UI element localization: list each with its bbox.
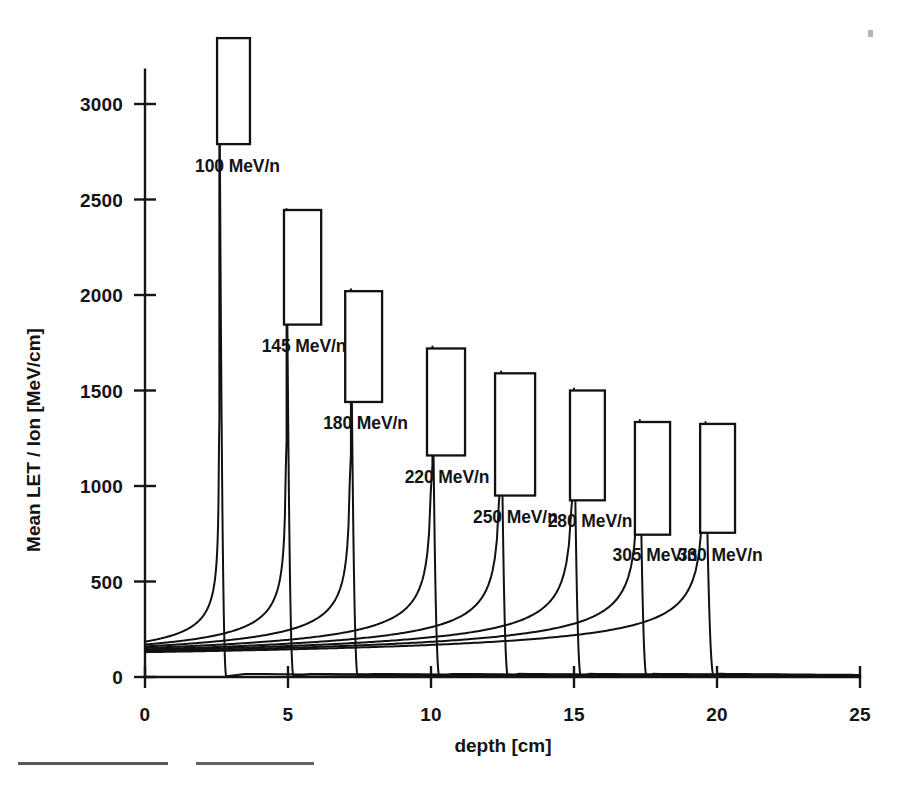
- energy-label-100: 100 MeV/n: [195, 156, 280, 176]
- caption-smudge-left: [18, 762, 168, 765]
- x-tick-label: 15: [563, 704, 585, 725]
- caption-smudge-right: [196, 762, 314, 765]
- y-tick-label: 2000: [80, 285, 123, 306]
- energy-label-280: 280 MeV/n: [548, 511, 633, 531]
- peak-box-180: [345, 291, 382, 402]
- energy-label-180: 180 MeV/n: [323, 413, 408, 433]
- energy-label-250: 250 MeV/n: [473, 507, 558, 527]
- energy-label-220: 220 MeV/n: [405, 467, 490, 487]
- y-tick-label: 3000: [80, 94, 123, 115]
- x-tick-label: 5: [283, 704, 294, 725]
- y-tick-label: 0: [112, 667, 123, 688]
- x-axis-title: depth [cm]: [454, 735, 551, 756]
- scan-speck: [868, 30, 873, 37]
- energy-label-330: 330 MeV/n: [678, 545, 763, 565]
- peak-box-305: [635, 422, 670, 535]
- y-tick-label: 1500: [80, 381, 123, 402]
- y-axis-title: Mean LET / Ion [MeV/cm]: [23, 328, 44, 552]
- peak-box-330: [700, 424, 735, 533]
- peak-boxes: [217, 38, 735, 535]
- chart-canvas: 0500100015002000250030000510152025 100 M…: [0, 0, 898, 791]
- y-tick-label: 2500: [80, 190, 123, 211]
- peak-box-145: [284, 210, 321, 325]
- bragg-curves: [145, 47, 860, 677]
- bragg-curve-figure: 0500100015002000250030000510152025 100 M…: [0, 0, 898, 791]
- peak-box-100: [217, 38, 250, 144]
- y-tick-label: 500: [91, 572, 123, 593]
- x-tick-label: 0: [140, 704, 151, 725]
- peak-box-280: [570, 391, 605, 501]
- energy-label-145: 145 MeV/n: [262, 336, 347, 356]
- y-tick-label: 1000: [80, 476, 123, 497]
- peak-box-220: [427, 348, 465, 455]
- x-tick-label: 10: [420, 704, 442, 725]
- peak-box-250: [495, 373, 535, 495]
- x-tick-label: 20: [706, 704, 728, 725]
- curve-annotations: 100 MeV/n145 MeV/n180 MeV/n220 MeV/n250 …: [195, 156, 762, 566]
- x-tick-label: 25: [849, 704, 871, 725]
- bragg-curve-100: [145, 47, 860, 677]
